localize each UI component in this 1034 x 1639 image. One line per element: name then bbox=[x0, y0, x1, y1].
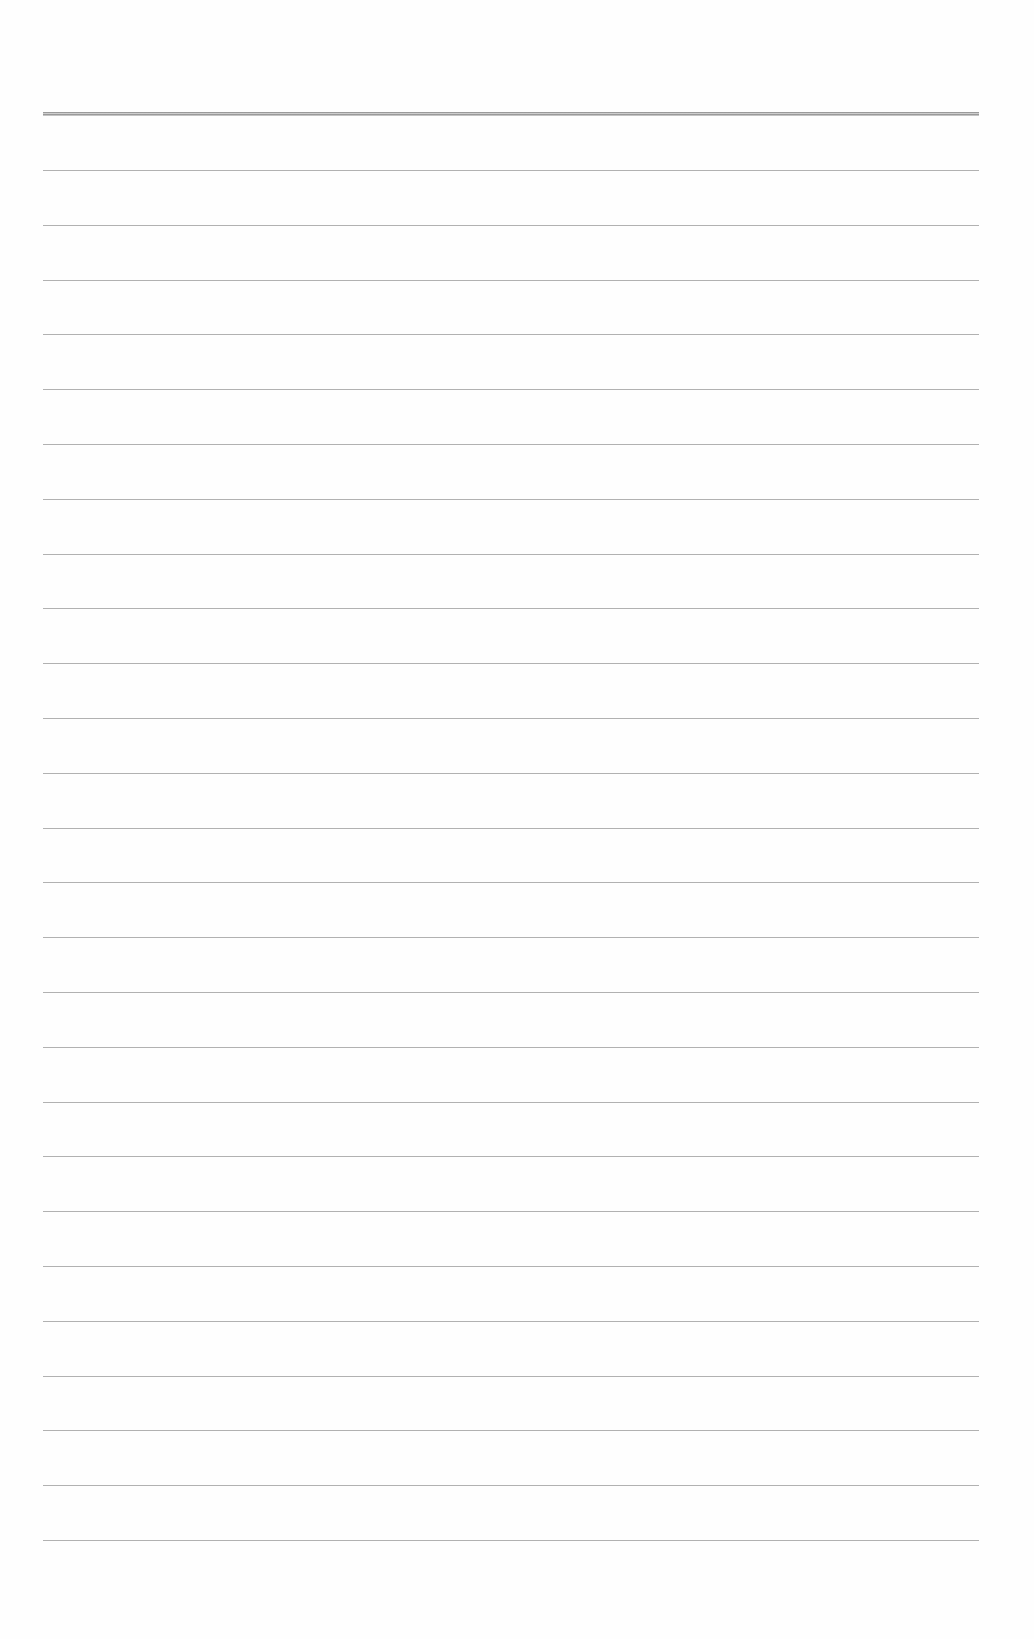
ruled-line bbox=[43, 1211, 979, 1212]
ruled-line bbox=[43, 225, 979, 226]
ruled-line bbox=[43, 554, 979, 555]
ruled-line bbox=[43, 1540, 979, 1541]
ruled-line bbox=[43, 882, 979, 883]
ruled-line bbox=[43, 444, 979, 445]
ruled-line bbox=[43, 937, 979, 938]
ruled-line bbox=[43, 828, 979, 829]
ruled-line bbox=[43, 280, 979, 281]
header-rule bbox=[43, 112, 979, 116]
ruled-line bbox=[43, 499, 979, 500]
ruled-line bbox=[43, 663, 979, 664]
ruled-line bbox=[43, 773, 979, 774]
ruled-line bbox=[43, 1266, 979, 1267]
ruled-line bbox=[43, 608, 979, 609]
ruled-line bbox=[43, 334, 979, 335]
ruled-line bbox=[43, 1376, 979, 1377]
ruled-line bbox=[43, 992, 979, 993]
ruled-line bbox=[43, 1047, 979, 1048]
lined-paper-page bbox=[0, 0, 1034, 1639]
ruled-line bbox=[43, 718, 979, 719]
ruled-line bbox=[43, 1321, 979, 1322]
ruled-line bbox=[43, 1102, 979, 1103]
ruled-line bbox=[43, 1485, 979, 1486]
ruled-line bbox=[43, 170, 979, 171]
ruled-line bbox=[43, 1430, 979, 1431]
ruled-line bbox=[43, 1156, 979, 1157]
ruled-line bbox=[43, 389, 979, 390]
